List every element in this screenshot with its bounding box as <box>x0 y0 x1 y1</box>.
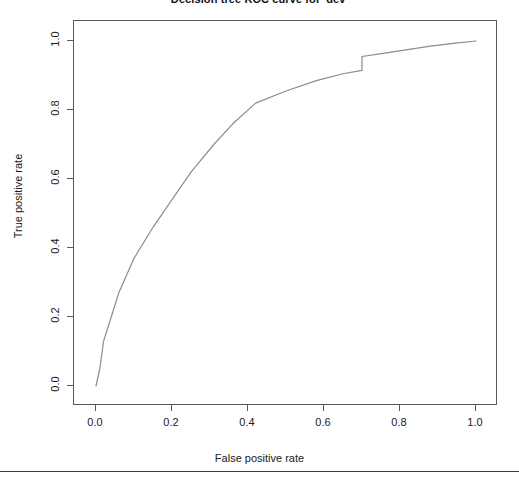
chart-title: Decision tree ROC curve for 'dev' <box>0 0 519 5</box>
y-tick-label: 0.0 <box>49 364 61 404</box>
x-tick-mark <box>399 405 400 411</box>
y-axis-title: True positive rate <box>12 136 24 256</box>
plot-area <box>73 20 497 405</box>
x-tick-label: 0.0 <box>75 416 115 428</box>
x-tick-label: 0.6 <box>303 416 343 428</box>
x-tick-mark <box>323 405 324 411</box>
y-tick-label: 1.0 <box>49 19 61 59</box>
x-tick-mark <box>247 405 248 411</box>
x-tick-label: 0.8 <box>379 416 419 428</box>
y-tick-mark <box>67 178 73 179</box>
y-tick-mark <box>67 109 73 110</box>
y-tick-label: 0.2 <box>49 295 61 335</box>
y-tick-label: 0.4 <box>49 226 61 266</box>
y-tick-mark <box>67 247 73 248</box>
y-tick-mark <box>67 385 73 386</box>
x-tick-mark <box>171 405 172 411</box>
x-tick-mark <box>95 405 96 411</box>
x-tick-label: 0.4 <box>227 416 267 428</box>
y-tick-label: 0.6 <box>49 157 61 197</box>
y-tick-mark <box>67 40 73 41</box>
y-tick-mark <box>67 316 73 317</box>
x-tick-mark <box>475 405 476 411</box>
footer-divider <box>0 471 519 472</box>
roc-curve-svg <box>74 21 498 406</box>
roc-curve-line <box>96 41 476 386</box>
y-tick-label: 0.8 <box>49 88 61 128</box>
x-axis-title: False positive rate <box>0 452 519 464</box>
x-tick-label: 1.0 <box>455 416 495 428</box>
x-tick-label: 0.2 <box>151 416 191 428</box>
